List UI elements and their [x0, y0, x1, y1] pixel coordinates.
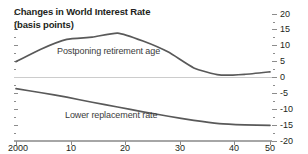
x-tick-label-30: 30: [168, 143, 192, 153]
y-tick-label-minus-10: -10: [280, 104, 293, 114]
chart-title-line-1: Changes in World Interest Rate: [14, 6, 150, 19]
x-tick-label-2000: 2000: [0, 143, 36, 153]
y-tick-label-5: 5: [280, 56, 285, 66]
series-label-postponing-retirement-age: Postponing retirement age: [57, 46, 160, 56]
x-tick-label-40: 40: [222, 143, 246, 153]
left-axis-ticks: [14, 14, 18, 133]
y-tick-label-20: 20: [280, 9, 290, 19]
chart-title: Changes in World Interest Rate (basis po…: [14, 6, 150, 31]
y-tick-label-minus-15: -15: [280, 120, 293, 130]
x-tick-label-50: 50: [258, 143, 282, 153]
x-tick-label-20: 20: [113, 143, 137, 153]
x-tick-label-10: 10: [59, 143, 83, 153]
chart-subtitle-line-2: (basis points): [14, 19, 150, 32]
y-tick-label-10: 10: [280, 40, 290, 50]
chart-container: Changes in World Interest Rate (basis po…: [0, 0, 308, 154]
y-tick-label-15: 15: [280, 24, 290, 34]
series-label-lower-replacement-rate: Lower replacement rate: [65, 110, 157, 120]
y-tick-label-minus-5: -5: [280, 88, 288, 98]
right-axis-ticks: [272, 14, 277, 141]
y-tick-label-0: 0: [280, 72, 285, 82]
